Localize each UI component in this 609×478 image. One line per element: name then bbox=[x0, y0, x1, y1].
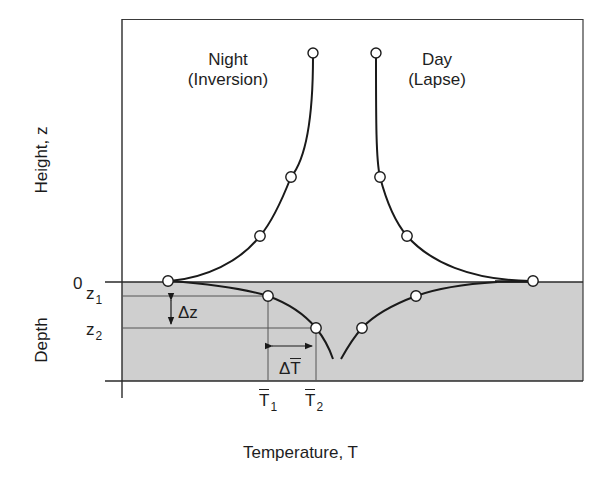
night-label-line1: Night bbox=[188, 51, 268, 68]
night-marker bbox=[308, 48, 318, 58]
night-marker bbox=[286, 172, 296, 182]
T1-label: T1 bbox=[259, 389, 277, 409]
day-soil-marker-z2 bbox=[357, 323, 367, 333]
day-soil-marker-z1 bbox=[411, 291, 421, 301]
z2-main: z bbox=[86, 320, 95, 339]
day-label-line1: Day bbox=[408, 51, 466, 68]
z1-label: z1 bbox=[86, 285, 102, 302]
day-air-curve bbox=[376, 57, 530, 281]
zero-depth-label: 0 bbox=[73, 275, 82, 292]
delta-T-label: ΔT bbox=[279, 358, 301, 377]
night-label-line2: (Inversion) bbox=[188, 71, 268, 88]
T2-subscript: 2 bbox=[316, 400, 323, 414]
delta-symbol: Δ bbox=[279, 359, 290, 378]
day-label: Day (Lapse) bbox=[408, 51, 466, 88]
z1-main: z bbox=[86, 284, 95, 303]
T1-subscript: 1 bbox=[270, 400, 277, 414]
delta-z-label: Δz bbox=[178, 304, 198, 321]
T2-label: T2 bbox=[305, 389, 323, 409]
T1-main: T bbox=[259, 389, 269, 409]
night-marker bbox=[255, 231, 265, 241]
T-mean-symbol: T bbox=[290, 358, 300, 377]
day-marker bbox=[375, 172, 385, 182]
night-surface-marker bbox=[163, 276, 173, 286]
day-surface-marker bbox=[528, 276, 538, 286]
y-axis-title-depth: Depth bbox=[33, 317, 50, 362]
night-label: Night (Inversion) bbox=[188, 51, 268, 88]
night-soil-marker-z1 bbox=[263, 291, 273, 301]
day-marker bbox=[402, 231, 412, 241]
night-air-curve bbox=[170, 57, 313, 281]
soil-region bbox=[122, 282, 583, 381]
T2-main: T bbox=[305, 389, 315, 409]
day-label-line2: (Lapse) bbox=[408, 71, 466, 88]
night-soil-marker-z2 bbox=[311, 323, 321, 333]
z2-subscript: 2 bbox=[96, 329, 103, 343]
x-axis-title: Temperature, T bbox=[243, 444, 358, 461]
z2-label: z2 bbox=[86, 321, 102, 338]
day-marker bbox=[371, 48, 381, 58]
z1-subscript: 1 bbox=[96, 293, 103, 307]
y-axis-title-height: Height, z bbox=[33, 126, 50, 193]
